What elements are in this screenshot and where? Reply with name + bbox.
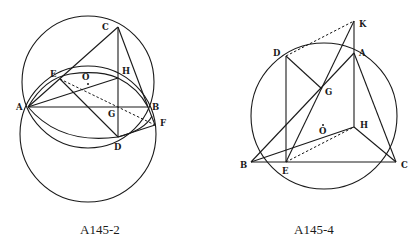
label-a: A — [358, 48, 366, 58]
segment-dk-dashed — [286, 21, 354, 56]
label-c: C — [401, 160, 408, 170]
label-k: K — [359, 19, 367, 29]
lower-circle — [20, 66, 156, 202]
label-c: C — [102, 22, 109, 32]
label-a: A — [15, 102, 23, 112]
segment-bh — [251, 127, 354, 162]
figure-a145-2: A B C D E F G H O A145-2 — [15, 16, 166, 237]
upper-circle — [22, 16, 154, 148]
label-e: E — [282, 166, 289, 176]
circumcircle — [251, 43, 397, 189]
label-d: D — [114, 142, 122, 152]
label-h: H — [122, 66, 130, 76]
caption-a145-2: A145-2 — [80, 222, 120, 237]
segment-ab — [251, 53, 354, 162]
caption-a145-4: A145-4 — [294, 222, 334, 237]
label-o: O — [319, 126, 327, 136]
label-b: B — [152, 102, 159, 112]
label-h: H — [360, 120, 368, 130]
segment-ek — [286, 21, 354, 162]
segment-ac — [354, 53, 396, 162]
segment-ah — [28, 78, 118, 107]
label-b: B — [240, 160, 247, 170]
label-f: F — [160, 118, 166, 128]
label-g: G — [108, 109, 115, 119]
segment-ac — [28, 27, 118, 107]
geometry-figures: A B C D E F G H O A145-2 K A D G H O B E… — [0, 0, 417, 248]
label-g: G — [325, 87, 332, 97]
label-o: O — [82, 72, 90, 82]
segment-dg — [286, 56, 322, 89]
figure-a145-4: K A D G H O B E C A145-4 — [240, 19, 408, 237]
label-e: E — [50, 69, 57, 79]
label-d: D — [273, 48, 281, 58]
center-o-dot — [87, 83, 89, 85]
